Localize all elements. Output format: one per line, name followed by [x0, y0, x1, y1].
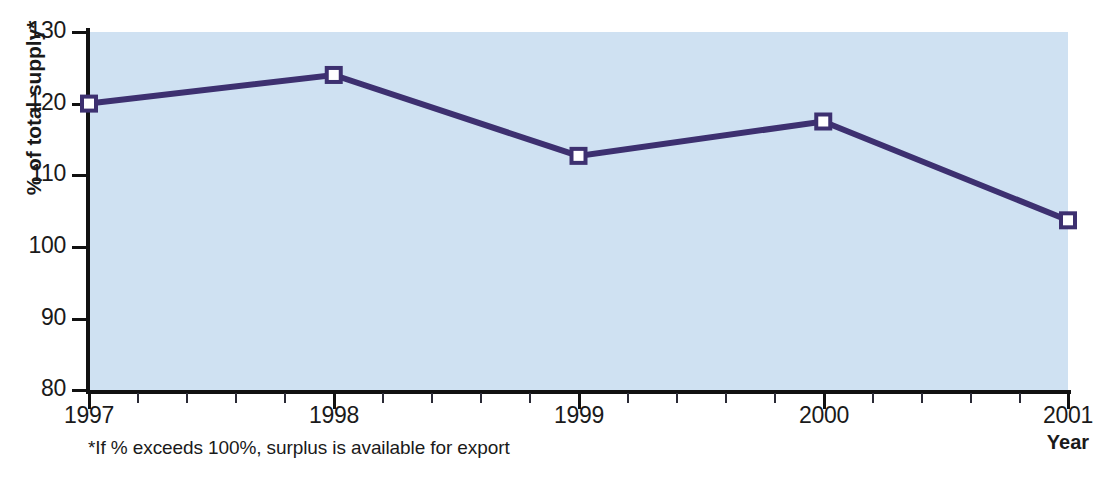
x-tick-label-2001: 2001	[1008, 402, 1103, 429]
y-tick-mark	[72, 31, 87, 34]
y-axis-line	[86, 28, 90, 394]
plot-area	[89, 32, 1068, 390]
y-tick-mark	[72, 174, 87, 177]
y-tick-label-90: 90	[6, 304, 66, 331]
x-tick-minor	[921, 393, 923, 403]
y-tick-mark	[72, 318, 87, 321]
x-tick-minor	[235, 393, 237, 403]
y-tick-label-80: 80	[6, 375, 66, 402]
y-tick-mark	[72, 103, 87, 106]
x-tick-minor	[970, 393, 972, 403]
y-tick-label-110: 110	[6, 160, 66, 187]
footnote-text: *If % exceeds 100%, surplus is available…	[88, 437, 510, 459]
x-tick-minor	[676, 393, 678, 403]
y-tick-label-120: 120	[6, 89, 66, 116]
x-tick-label-1999: 1999	[519, 402, 639, 429]
x-tick-minor	[186, 393, 188, 403]
x-tick-minor	[480, 393, 482, 403]
line-chart-figure: % of total supply* 130 120 110 100 90 80…	[0, 0, 1103, 482]
y-tick-label-130: 130	[6, 17, 66, 44]
y-tick-label-100: 100	[6, 232, 66, 259]
y-tick-mark	[72, 389, 87, 392]
x-tick-label-2000: 2000	[764, 402, 884, 429]
x-tick-label-1998: 1998	[274, 402, 394, 429]
x-axis-title: Year	[1008, 431, 1103, 454]
x-tick-minor	[725, 393, 727, 403]
x-tick-minor	[431, 393, 433, 403]
y-tick-mark	[72, 246, 87, 249]
x-tick-label-1997: 1997	[29, 402, 149, 429]
